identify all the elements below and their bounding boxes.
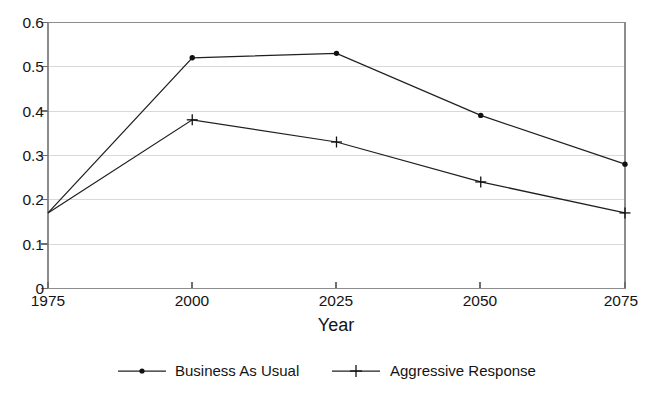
y-tick-label-0.5: 0.5 [22, 58, 44, 75]
y-tick-label-0.6: 0.6 [22, 14, 44, 31]
x-tick-label-2075: 2075 [604, 292, 638, 309]
x-tick-label-2000: 2000 [175, 292, 210, 309]
y-tick-label-0.4: 0.4 [22, 103, 44, 120]
x-axis-title: Year [318, 315, 354, 335]
data-point-marker [478, 113, 483, 118]
legend-label-aggressive-response: Aggressive Response [390, 362, 536, 379]
x-tick-label-2050: 2050 [463, 292, 498, 309]
y-tick-label-0.1: 0.1 [22, 236, 44, 253]
y-tick-label-0.3: 0.3 [22, 147, 44, 164]
y-tick-label-0.2: 0.2 [22, 191, 44, 208]
data-point-marker [334, 51, 339, 56]
line-chart-figure: 0.6 0.5 0.4 0.3 0.2 0.1 0 1975 2000 2025… [0, 0, 659, 394]
data-point-marker [190, 55, 195, 60]
data-point-marker [622, 161, 627, 166]
x-tick-label-1975: 1975 [31, 292, 65, 309]
chart-container: 0.6 0.5 0.4 0.3 0.2 0.1 0 1975 2000 2025… [0, 0, 659, 394]
x-tick-label-2025: 2025 [319, 292, 353, 309]
legend-dot-icon [139, 368, 144, 373]
legend-label-business-as-usual: Business As Usual [175, 362, 299, 379]
